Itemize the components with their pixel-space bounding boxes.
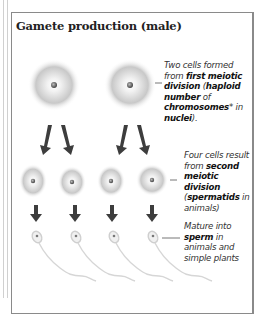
arrow-icon [30,205,158,222]
spermatid-cell [136,164,168,196]
arrow-icon [40,125,150,155]
haploid-cell [104,59,156,111]
spermatid-cell [19,164,47,198]
spermatid-cell [97,165,125,197]
spermatid-cell [58,166,86,198]
note-first-division: Two cells formed from first meiotic divi… [164,60,250,124]
note-second-division: Four cells result from second meiotic di… [184,150,250,214]
sperm-cell [69,230,135,281]
note-maturation: Mature into sperm in animals and simple … [184,221,250,263]
haploid-cell [28,59,80,111]
